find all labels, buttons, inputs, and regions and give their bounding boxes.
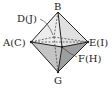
label-back: D(J) [17, 13, 37, 24]
label-bottom: G [54, 75, 62, 86]
octahedron-diagram: B D(J) A(C) E(I) F(H) G [0, 0, 112, 89]
label-right: E(I) [89, 37, 108, 48]
label-top: B [54, 1, 61, 12]
label-front: F(H) [78, 53, 102, 64]
label-left: A(C) [2, 37, 26, 48]
